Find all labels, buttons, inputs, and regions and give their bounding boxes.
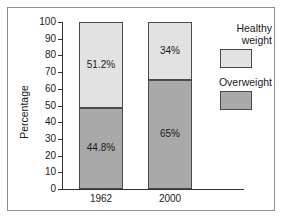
bar-2000-overweight-segment[interactable]: 65% (148, 80, 192, 190)
bar-2000-healthy-label: 34% (160, 46, 180, 56)
x-tick-label-2000: 2000 (140, 193, 200, 204)
y-tick-label: 60 (45, 84, 56, 94)
chart-figure: Percentage 100 90 80 70 60 50 (0, 0, 284, 224)
legend-entry-overweight[interactable]: Overweight (198, 76, 272, 114)
y-tick-mark (58, 122, 62, 123)
y-tick-mark (58, 39, 62, 40)
y-tick-mark (58, 22, 62, 23)
y-tick-label: 80 (45, 50, 56, 60)
y-tick-label: 100 (39, 17, 56, 27)
y-tick-label: 40 (45, 117, 56, 127)
bar-1962-healthy-segment[interactable]: 51.2% (79, 22, 123, 108)
bar-1962[interactable]: 51.2% 44.8% (79, 22, 123, 189)
bar-2000-healthy-segment[interactable]: 34% (148, 22, 192, 80)
y-tick-mark (58, 72, 62, 73)
y-tick-mark (58, 189, 62, 190)
bar-2000-overweight-label: 65% (160, 129, 180, 139)
y-axis-line (62, 22, 63, 189)
x-axis-line (62, 189, 244, 190)
legend-label-overweight: Overweight (198, 76, 272, 88)
legend: Healthy weight Overweight (198, 22, 272, 118)
y-tick-mark (58, 139, 62, 140)
y-tick-label: 10 (45, 167, 56, 177)
y-tick-label: 20 (45, 151, 56, 161)
legend-entry-healthy-weight[interactable]: Healthy weight (198, 22, 272, 72)
bar-2000[interactable]: 34% 65% (148, 22, 192, 189)
bar-1962-overweight-label: 44.8% (87, 143, 115, 153)
y-tick-label: 90 (45, 34, 56, 44)
x-tick-label-1962: 1962 (71, 193, 131, 204)
y-axis-title: Percentage (18, 85, 30, 139)
y-tick-mark (58, 55, 62, 56)
legend-swatch-healthy-weight (220, 49, 252, 68)
y-tick-mark (58, 106, 62, 107)
legend-swatch-overweight (220, 91, 252, 110)
y-tick-label: 70 (45, 67, 56, 77)
legend-label-healthy-line2: weight (198, 34, 272, 46)
y-tick-mark (58, 89, 62, 90)
bar-1962-healthy-label: 51.2% (87, 60, 115, 70)
y-tick-label: 0 (50, 184, 56, 194)
y-tick-mark (58, 172, 62, 173)
y-tick-label: 30 (45, 134, 56, 144)
plot-area: 100 90 80 70 60 50 40 30 (62, 22, 206, 189)
y-tick-label: 50 (45, 101, 56, 111)
legend-label-healthy-line1: Healthy (198, 22, 272, 34)
y-tick-mark (58, 156, 62, 157)
bar-1962-overweight-segment[interactable]: 44.8% (79, 108, 123, 190)
